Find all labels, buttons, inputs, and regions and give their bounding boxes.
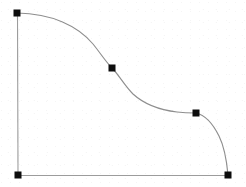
knot-marker-1[interactable] — [14, 10, 21, 17]
vertical-axis-line — [18, 13, 19, 175]
knot-marker-3[interactable] — [193, 110, 200, 117]
spline-curve-path — [17, 13, 228, 175]
origin-corner-marker[interactable] — [15, 172, 22, 179]
knot-marker-2[interactable] — [109, 65, 116, 72]
knot-marker-4[interactable] — [225, 172, 232, 179]
figure-canvas — [0, 0, 246, 187]
spline-figure — [0, 0, 246, 187]
